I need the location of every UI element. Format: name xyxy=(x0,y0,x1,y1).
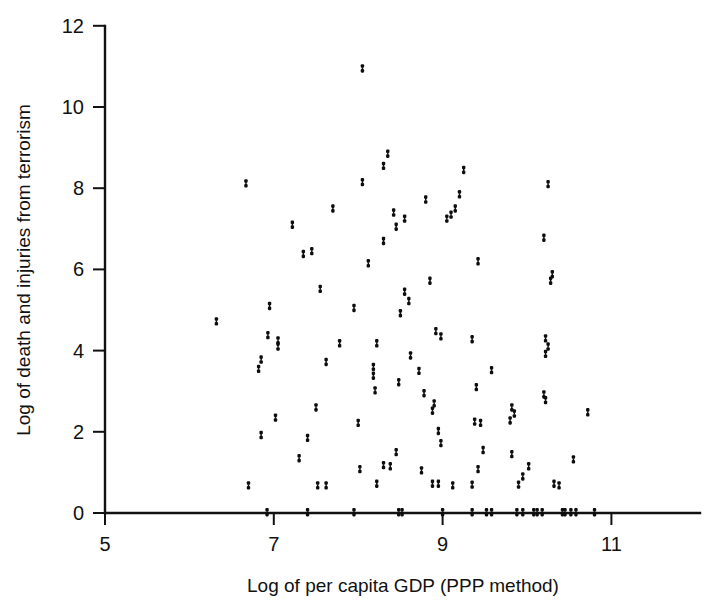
data-point xyxy=(527,462,530,470)
data-point-glyph-upper xyxy=(454,204,457,208)
data-point-glyph-upper xyxy=(439,439,442,443)
data-point xyxy=(407,297,410,305)
data-point xyxy=(372,363,375,371)
data-point-glyph-upper xyxy=(437,427,440,431)
data-point-glyph-upper xyxy=(372,372,375,376)
data-point-glyph-lower xyxy=(314,408,317,412)
data-point xyxy=(357,419,360,427)
data-point-glyph-lower xyxy=(394,453,397,457)
x-axis-title: Log of per capita GDP (PPP method) xyxy=(247,575,559,596)
data-point xyxy=(542,234,545,242)
data-point-glyph-upper xyxy=(546,180,549,184)
data-point xyxy=(310,247,313,255)
data-point-glyph-upper xyxy=(544,396,547,400)
data-point xyxy=(382,461,385,469)
data-point xyxy=(546,180,549,188)
data-point-glyph-lower xyxy=(424,200,427,204)
data-point-glyph-lower xyxy=(417,372,420,376)
data-point-glyph-upper xyxy=(475,383,478,387)
data-point xyxy=(549,277,552,285)
data-point-glyph-lower xyxy=(389,467,392,471)
data-point xyxy=(367,259,370,267)
x-tick-label: 7 xyxy=(268,533,279,555)
data-point xyxy=(458,190,461,198)
data-point-glyph-upper xyxy=(445,214,448,218)
data-point-glyph-upper xyxy=(422,389,425,393)
data-point-glyph-lower xyxy=(490,371,493,375)
data-point-glyph-lower xyxy=(394,227,397,231)
data-point xyxy=(437,480,440,488)
data-point-glyph-lower xyxy=(265,513,268,517)
data-point-glyph-upper xyxy=(297,454,300,458)
x-tick-label: 5 xyxy=(99,533,110,555)
data-point-glyph-upper xyxy=(324,481,327,485)
data-point xyxy=(403,288,406,296)
data-point-glyph-upper xyxy=(563,508,566,512)
data-point xyxy=(399,309,402,317)
data-point-glyph-upper xyxy=(551,270,554,274)
data-point-glyph-lower xyxy=(291,225,294,229)
data-point-glyph-lower xyxy=(373,391,376,395)
data-point-glyph-upper xyxy=(485,508,488,512)
data-point-glyph-lower xyxy=(266,336,269,340)
data-point-glyph-upper xyxy=(586,408,589,412)
data-point-glyph-upper xyxy=(549,277,552,281)
data-point xyxy=(403,214,406,222)
data-point xyxy=(375,480,378,488)
data-point-glyph-lower xyxy=(316,486,319,490)
data-point-glyph-upper xyxy=(439,332,442,336)
y-tick-label: 0 xyxy=(73,502,84,524)
data-point-glyph-upper xyxy=(257,365,260,369)
data-point xyxy=(215,317,218,325)
data-point-glyph-lower xyxy=(361,183,364,187)
data-point-glyph-upper xyxy=(316,481,319,485)
data-point xyxy=(462,166,465,174)
data-point-glyph-upper xyxy=(392,208,395,212)
data-point-glyph-lower xyxy=(535,513,538,517)
data-point-glyph-lower xyxy=(544,354,547,358)
data-point-glyph-upper xyxy=(373,386,376,390)
data-point-glyph-upper xyxy=(276,336,279,340)
data-point-glyph-lower xyxy=(441,513,444,517)
data-point-glyph-lower xyxy=(546,185,549,189)
data-point xyxy=(259,431,262,439)
data-point-glyph-lower xyxy=(437,484,440,488)
data-point-glyph-lower xyxy=(428,281,431,285)
data-point xyxy=(409,351,412,359)
y-axis-ticks: 024681012 xyxy=(62,15,105,524)
data-point-glyph-upper xyxy=(535,508,538,512)
data-point-glyph-upper xyxy=(268,302,271,306)
data-point-glyph-upper xyxy=(434,327,437,331)
data-point xyxy=(439,439,442,447)
data-point-glyph-upper xyxy=(542,390,545,394)
data-point xyxy=(417,367,420,375)
data-point-glyph-upper xyxy=(521,472,524,476)
data-point-glyph-lower xyxy=(513,414,516,418)
data-point xyxy=(552,480,555,488)
data-point-glyph-lower xyxy=(268,307,271,311)
data-point-glyph-upper xyxy=(431,480,434,484)
data-point-glyph-lower xyxy=(297,459,300,463)
data-point xyxy=(373,386,376,394)
data-point xyxy=(473,417,476,425)
data-point xyxy=(422,389,425,397)
data-point xyxy=(481,446,484,454)
data-point xyxy=(517,480,520,488)
data-point-glyph-upper xyxy=(367,259,370,263)
data-point-glyph-upper xyxy=(431,406,434,410)
data-point xyxy=(521,472,524,480)
data-point xyxy=(420,466,423,474)
data-point-glyph-upper xyxy=(358,465,361,469)
data-point xyxy=(247,481,250,489)
y-tick-label: 4 xyxy=(73,340,84,362)
data-point xyxy=(361,178,364,186)
data-point-glyph-lower xyxy=(310,252,313,256)
data-point-glyph-lower xyxy=(569,513,572,517)
data-point-glyph-lower xyxy=(257,369,260,373)
data-point xyxy=(257,365,260,373)
data-point-glyph-lower xyxy=(544,339,547,343)
data-point-glyph-lower xyxy=(358,470,361,474)
data-point-glyph-lower xyxy=(527,467,530,471)
data-point-glyph-upper xyxy=(276,342,279,346)
data-point-glyph-upper xyxy=(552,480,555,484)
